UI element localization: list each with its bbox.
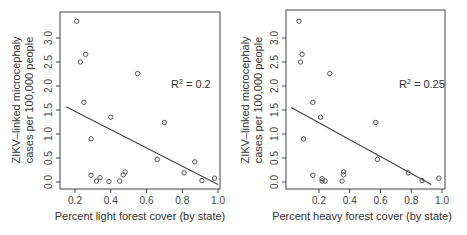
data-point (297, 19, 301, 23)
data-point (318, 115, 322, 119)
y-axis-label-line2: cases per 100,000 people (252, 37, 264, 164)
y-tick-label: 3.0 (43, 31, 54, 45)
data-point (375, 157, 379, 161)
x-tick-label: 0.6 (374, 195, 388, 206)
y-tick-label: 1.5 (43, 103, 54, 117)
x-tick-label: 0.8 (404, 195, 418, 206)
data-point (193, 160, 197, 164)
y-tick-label: 1.0 (269, 127, 280, 141)
data-point (298, 60, 302, 64)
r-squared-annotation: R2 = 0.2 (171, 78, 211, 90)
x-tick-label: 0.4 (104, 195, 118, 206)
data-point (328, 71, 332, 75)
r-squared-annotation: R2 = 0.25 (399, 78, 445, 90)
data-point (200, 178, 204, 182)
y-tick-label: 0.0 (269, 175, 280, 189)
data-point (78, 60, 82, 64)
x-tick-label: 1.0 (211, 195, 225, 206)
x-tick-label: 1.0 (435, 195, 449, 206)
y-tick-label: 1.0 (43, 127, 54, 141)
y-axis-label-line1: ZIKV–linked microcephaly (239, 36, 251, 164)
data-point (109, 115, 113, 119)
data-point (89, 173, 93, 177)
y-axis: 0.00.51.01.52.02.53.0 (43, 31, 60, 189)
regression-line (66, 107, 218, 185)
data-point (212, 176, 216, 180)
y-tick-label: 2.0 (269, 79, 280, 93)
data-points (75, 19, 217, 184)
data-point (182, 171, 186, 175)
x-tick-label: 0.4 (343, 195, 357, 206)
y-tick-label: 0.5 (43, 151, 54, 165)
data-point (75, 19, 79, 23)
data-point (341, 170, 345, 174)
data-point (94, 179, 98, 183)
data-point (311, 100, 315, 104)
y-tick-label: 1.5 (269, 103, 280, 117)
scatter-charts: 0.00.51.01.52.02.53.0 0.20.40.60.81.0 R2… (0, 0, 467, 235)
data-point (340, 179, 344, 183)
y-axis: 0.00.51.01.52.02.53.0 (269, 31, 286, 189)
y-tick-label: 3.0 (269, 31, 280, 45)
x-tick-label: 0.2 (68, 195, 82, 206)
x-axis-label: Percent light forest cover (by state) (55, 210, 226, 222)
heavy-forest-chart: 0.00.51.01.52.02.53.0 0.20.40.60.81.0 R2… (239, 10, 452, 222)
x-axis-label: Percent heavy forest cover (by state) (272, 210, 452, 222)
light-forest-chart: 0.00.51.01.52.02.53.0 0.20.40.60.81.0 R2… (10, 12, 225, 222)
y-axis-label-line1: ZIKV–linked microcephaly (10, 36, 22, 164)
x-tick-label: 0.8 (175, 195, 189, 206)
data-point (162, 120, 166, 124)
y-tick-label: 2.0 (43, 79, 54, 93)
y-axis-label-line2: cases per 100,000 people (23, 37, 35, 164)
data-point (311, 173, 315, 177)
data-point (107, 179, 111, 183)
data-point (98, 175, 102, 179)
data-points (297, 19, 441, 183)
data-point (301, 137, 305, 141)
x-tick-label: 0.6 (140, 195, 154, 206)
data-point (300, 52, 304, 56)
plot-frame (286, 10, 445, 189)
data-point (89, 137, 93, 141)
data-point (374, 120, 378, 124)
y-tick-label: 2.5 (43, 55, 54, 69)
x-tick-label: 0.2 (312, 195, 326, 206)
x-axis: 0.20.40.60.81.0 (312, 189, 449, 206)
data-point (437, 176, 441, 180)
data-point (155, 157, 159, 161)
data-point (323, 179, 327, 183)
y-tick-label: 2.5 (269, 55, 280, 69)
data-point (84, 52, 88, 56)
data-point (135, 71, 139, 75)
y-tick-label: 0.5 (269, 151, 280, 165)
x-axis: 0.20.40.60.81.0 (68, 189, 225, 206)
data-point (117, 179, 121, 183)
y-tick-label: 0.0 (43, 175, 54, 189)
data-point (82, 100, 86, 104)
